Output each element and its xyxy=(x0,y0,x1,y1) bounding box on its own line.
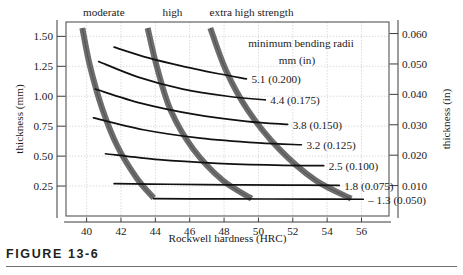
y-axis-tick-label-right: 0.040 xyxy=(402,88,428,100)
figure-caption-wrap: FIGURE 13-6 xyxy=(6,247,457,261)
y-axis-tick-label-left: 0.25 xyxy=(33,180,53,192)
x-axis-tick-label: 42 xyxy=(115,225,126,237)
y-axis-tick-label-left: 0.75 xyxy=(33,120,53,132)
y-axis-tick-label-right: 0.020 xyxy=(402,149,428,161)
x-axis-tick-label: 52 xyxy=(287,225,298,237)
y-axis-tick-label-right: 0.010 xyxy=(402,180,428,192)
radius-curve-label: 3.2 (0.125) xyxy=(306,139,356,152)
caption-rule xyxy=(6,266,457,267)
radius-curve-label: 3.8 (0.150) xyxy=(293,119,343,132)
strength-band-label: high xyxy=(163,6,183,18)
radius-curve-label: 2.5 (0.100) xyxy=(329,160,379,173)
y-axis-left: 0.250.500.751.001.251.50 xyxy=(33,20,65,218)
radius-curve-label: 1.8 (0.075) xyxy=(344,180,394,193)
y-axis-tick-label-right: 0.060 xyxy=(402,28,428,40)
x-axis-tick-label: 54 xyxy=(322,225,334,237)
figure-container: 404244464850525456 0.250.500.751.001.251… xyxy=(0,0,463,275)
radius-curve-label: 5.1 (0.200) xyxy=(251,73,301,86)
strength-band-labels: moderatehighextra high strength xyxy=(83,6,294,18)
y-axis-tick-label-left: 1.50 xyxy=(33,30,53,42)
radius-curve xyxy=(154,199,364,200)
y-axis-title-right: thickness (in) xyxy=(440,88,453,149)
radii-title: minimum bending radii xyxy=(248,37,354,49)
y-axis-tick-label-left: 1.25 xyxy=(33,60,53,72)
strength-band-label: extra high strength xyxy=(210,6,294,18)
y-axis-title-left: thickness (mm) xyxy=(13,84,26,154)
radius-curve-label: – 1.3 (0.050) xyxy=(367,194,426,207)
strength-band-label: moderate xyxy=(83,6,125,18)
y-axis-tick-label-left: 1.00 xyxy=(33,90,53,102)
y-axis-right: 0.0100.0200.0300.0400.0500.060 xyxy=(390,20,428,218)
x-axis-tick-label: 44 xyxy=(150,225,162,237)
figure-caption: FIGURE 13-6 xyxy=(6,247,457,261)
y-axis-tick-label-right: 0.050 xyxy=(402,58,428,70)
x-axis-title: Rockwell hardness (HRC) xyxy=(168,232,286,245)
radii-units: mm (in) xyxy=(279,54,316,67)
y-axis-tick-label-right: 0.030 xyxy=(402,119,428,131)
bending-radii-chart: 404244464850525456 0.250.500.751.001.251… xyxy=(0,0,463,245)
x-axis-tick-label: 56 xyxy=(356,225,368,237)
radius-curve-label: 4.4 (0.175) xyxy=(270,94,320,107)
y-axis-tick-label-left: 0.50 xyxy=(33,150,53,162)
x-axis-tick-label: 40 xyxy=(81,225,93,237)
